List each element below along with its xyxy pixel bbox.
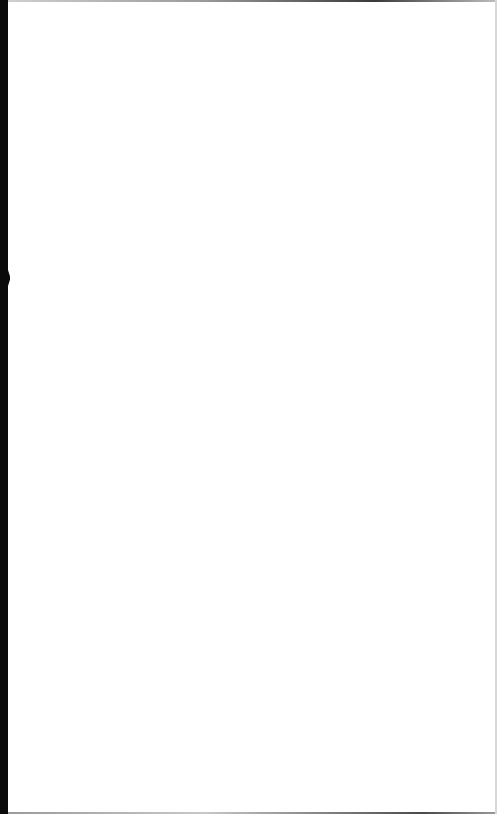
blank-page [8, 2, 495, 812]
left-dark-edge [0, 0, 8, 814]
top-edge [8, 0, 497, 2]
